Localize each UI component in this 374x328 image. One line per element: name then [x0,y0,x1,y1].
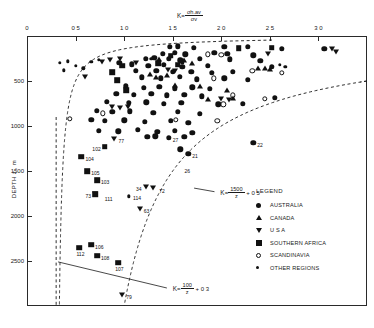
data-point [205,97,211,102]
data-point-label: 34 [136,186,142,192]
data-point [224,88,230,93]
data-point-label: 102 [92,146,100,152]
x-axis-title-numerator: σh.av [185,9,203,16]
equation-numerator: 1500 [228,186,244,193]
data-point [168,53,174,59]
data-point [172,68,178,73]
y-axis-tick-label: 2000 [0,213,24,219]
equation-constant: + 0 3 [194,285,209,291]
x-axis-tick [270,36,271,41]
x-axis-tick [76,36,77,41]
legend-item-label: AUSTRALIA [270,202,303,208]
data-point-label: 21 [192,153,198,159]
data-point [117,56,123,61]
data-point [150,186,156,191]
data-point [255,66,261,71]
data-point [197,84,203,89]
data-point [267,67,273,72]
y-axis-tick-label: 2500 [0,258,24,264]
data-point [110,69,116,75]
data-point-label: 103 [101,179,109,185]
x-axis-tick-label: 3 0 [314,25,322,31]
open-circle-icon [256,253,270,258]
data-point [189,61,195,66]
data-point [125,104,131,109]
data-point-label: 114 [133,195,141,201]
data-point [94,177,100,183]
legend-item-label: CANADA [270,215,295,221]
x-axis-tick [173,36,174,41]
data-point [164,72,170,77]
data-point [269,45,275,51]
legend-item-label: U S A [270,227,285,233]
data-point [123,87,129,93]
x-axis-tick [124,36,125,41]
x-axis-tick-label: 1 0 [120,25,128,31]
y-axis-tick [27,216,32,217]
equation-denominator: z [181,289,194,295]
y-axis-tick [27,171,32,172]
data-point [79,154,85,160]
x-axis-tick-label: 1 5 [169,25,177,31]
legend-item-scandinavia: SCANDINAVIA [256,249,326,262]
data-point-label: 104 [85,156,93,162]
data-point [94,253,100,259]
data-point-label: 63 [144,208,150,214]
upper-bound-eq: K=1500z + 0 5 [220,186,259,200]
legend: LEGEND AUSTRALIACANADAU S ASOUTHERN AFRI… [256,188,326,274]
data-point [137,206,143,211]
data-point [117,106,123,111]
triangle-up-icon [256,215,270,220]
lower-bound-eq: K=100z + 0 3 [173,282,209,296]
legend-item-canada: CANADA [256,212,326,225]
data-point [175,62,181,68]
x-axis-tick-label: 2 0 [217,25,225,31]
data-point-label: 106 [95,244,103,250]
filled-square-icon [256,240,270,246]
data-point-label: 77 [118,138,124,144]
legend-title: LEGEND [256,188,326,194]
data-point-label: 22 [257,142,263,148]
x-axis-title-denominator: σv [185,16,203,22]
data-point [333,50,339,55]
data-point-label: 72 [159,188,165,194]
legend-item-australia: AUSTRALIA [256,199,326,212]
x-axis-tick-label: 2 5 [266,25,274,31]
data-point [82,75,88,80]
legend-item-label: OTHER REGIONS [270,265,320,271]
data-point-label: 79 [126,294,132,300]
y-axis-tick-label: 1000 [0,123,24,129]
data-point [107,58,113,63]
filled-circle-icon [256,203,270,208]
legend-item-southern-africa: SOUTHERN AFRICA [256,237,326,250]
x-axis-tick-label: 0 5 [71,25,79,31]
data-point [119,293,125,298]
legend-item-label: SOUTHERN AFRICA [270,240,326,246]
small-dot-icon [256,266,270,269]
data-point [143,185,149,190]
equation-numerator: 100 [181,282,194,289]
data-point [119,63,125,69]
legend-item-label: SCANDINAVIA [270,252,310,258]
y-axis-tick-label: 1500 [0,168,24,174]
data-point [88,242,94,248]
data-point [116,260,122,266]
data-point [111,136,117,141]
data-point [102,144,108,150]
data-point [153,74,159,79]
data-point [172,82,178,87]
data-point-label: 26 [184,168,190,174]
data-point-label: 107 [115,266,123,272]
data-point-label: 108 [101,255,109,261]
data-point [226,97,232,102]
x-axis-tick [318,36,319,41]
data-point [165,68,171,73]
y-axis-title: DEPTH z , m [11,148,17,210]
data-point [115,77,121,83]
data-point-label: 105 [91,170,99,176]
data-point-label: 112 [76,251,84,257]
equation-constant: + 0 5 [245,189,260,195]
data-point [109,105,115,110]
x-axis-title: K= σh.av σv [150,9,230,23]
legend-item-other-regions: OTHER REGIONS [256,262,326,275]
